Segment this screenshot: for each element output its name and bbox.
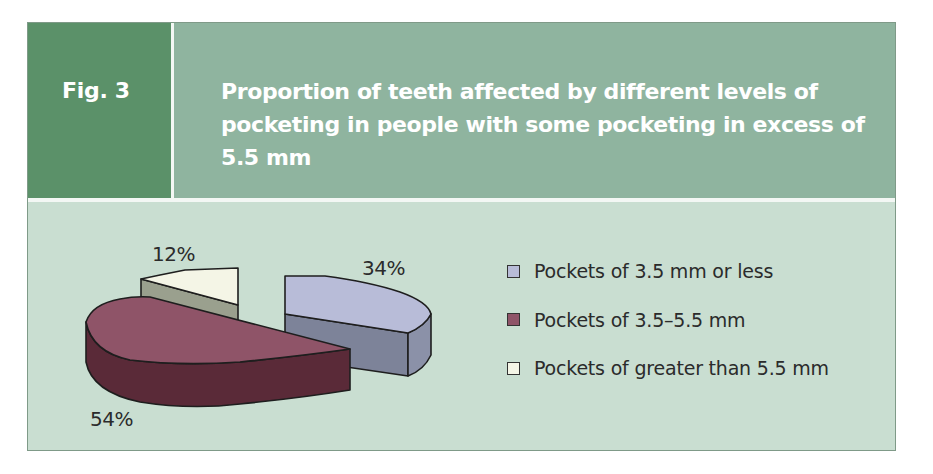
slice-label-34: 34% [362,256,405,280]
legend-label: Pockets of 3.5–5.5 mm [534,309,745,331]
slice-label-54: 54% [90,407,133,431]
legend-swatch-cream-icon [507,362,520,375]
legend-item: Pockets of greater than 5.5 mm [507,344,829,393]
chart-legend: Pockets of 3.5 mm or less Pockets of 3.5… [507,247,829,393]
pie-chart [0,0,933,474]
legend-label: Pockets of 3.5 mm or less [534,260,773,282]
legend-item: Pockets of 3.5–5.5 mm [507,296,829,345]
legend-label: Pockets of greater than 5.5 mm [534,357,829,379]
slice-label-12: 12% [152,242,195,266]
legend-swatch-maroon-icon [507,313,520,326]
legend-swatch-lavender-icon [507,265,520,278]
legend-item: Pockets of 3.5 mm or less [507,247,829,296]
